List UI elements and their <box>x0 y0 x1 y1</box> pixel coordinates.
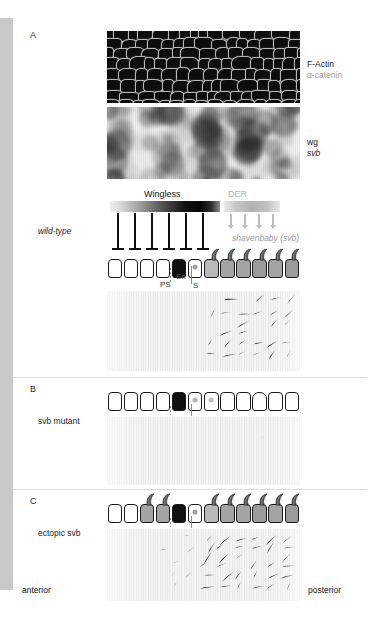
epidermal-cell <box>156 504 170 523</box>
epidermal-cell <box>156 259 170 278</box>
cell-nucleus <box>193 398 198 403</box>
denticle-hook <box>291 248 305 261</box>
epidermal-cell <box>124 504 138 523</box>
wingless-repression-bar-foot <box>180 248 192 250</box>
s-marker-label: S <box>193 281 198 290</box>
epidermal-cell <box>252 504 266 523</box>
en-marker-label: En <box>176 272 186 281</box>
left-gutter-bar <box>0 18 13 590</box>
epidermal-cell <box>220 504 234 523</box>
panel-letter-c: C <box>30 496 37 506</box>
epidermal-cell <box>140 504 154 523</box>
wingless-repression-bar <box>151 213 153 248</box>
s-marker-line-b <box>191 404 192 416</box>
epidermal-cell <box>140 259 154 278</box>
alpha-catenin-label: α-catenin <box>307 70 342 80</box>
denticle-hook <box>291 493 305 506</box>
epidermal-cell <box>220 259 234 278</box>
epidermal-cell <box>108 259 122 278</box>
f-actin-cell <box>294 99 300 103</box>
cell-nucleus <box>209 398 214 403</box>
der-activation-arrow-head <box>242 225 248 229</box>
cell-row-wild-type <box>107 252 300 278</box>
wild-type-row-label: wild-type <box>38 226 72 236</box>
svb-mutant-italic: svb <box>38 416 51 426</box>
ps-marker-label: PS <box>160 280 171 289</box>
der-gradient-bar <box>224 201 280 212</box>
panel-divider-b-c <box>13 489 367 490</box>
cuticle-svb-mutant <box>107 417 300 485</box>
der-activation-arrow-head <box>270 225 276 229</box>
cuticle-wild-type <box>107 291 300 371</box>
cuticle-ectopic-svb <box>107 529 300 601</box>
wingless-gradient-bar <box>110 201 220 212</box>
ectopic-plain: ectopic <box>38 528 67 538</box>
ectopic-svb-row-label: ectopic svb <box>38 528 81 538</box>
cuticle-edge-fade <box>107 529 300 601</box>
wingless-repression-bar-foot <box>129 248 141 250</box>
ps-marker-line-c <box>170 518 171 527</box>
epidermal-cell <box>140 392 154 411</box>
epidermal-cell <box>268 392 282 411</box>
wingless-repression-bar <box>117 213 119 248</box>
wingless-repression-bar <box>168 213 170 248</box>
epidermal-cell <box>124 392 138 411</box>
cuticle-edge-fade <box>107 291 300 371</box>
svb-mutant-row-label: svb mutant <box>38 416 80 426</box>
f-actin-cell <box>107 99 120 103</box>
figure-root: A F-Actin α-catenin wg svb Wingless DER … <box>0 0 375 626</box>
cell-nucleus <box>193 510 198 515</box>
f-actin-label: F-Actin <box>307 59 334 69</box>
wg-label: wg <box>307 137 318 147</box>
wingless-repression-bar <box>185 213 187 248</box>
wingless-gradient-title: Wingless <box>144 189 181 199</box>
epidermal-cell <box>204 504 218 523</box>
insitu-vignette <box>107 107 300 179</box>
epidermal-cell <box>236 392 250 411</box>
epidermal-cell <box>285 392 299 411</box>
ps-marker-line-b <box>170 406 171 415</box>
epidermal-cell <box>108 392 122 411</box>
svb-label: svb <box>307 148 320 158</box>
posterior-label: posterior <box>308 585 341 595</box>
epidermal-cell <box>236 504 250 523</box>
cuticle-edge-fade <box>107 417 300 485</box>
wingless-repression-bar-foot <box>197 248 209 250</box>
epidermal-cell <box>172 504 186 523</box>
wingless-repression-bar <box>202 213 204 248</box>
epidermal-cell <box>220 392 234 411</box>
epidermal-cell <box>156 392 170 411</box>
cell-row-svb-mutant <box>107 385 300 411</box>
ectopic-italic: svb <box>67 528 80 538</box>
der-activation-arrow-head <box>228 225 234 229</box>
panel-letter-b: B <box>30 384 36 394</box>
epidermal-cell <box>204 259 218 278</box>
f-actin-micrograph <box>107 31 300 103</box>
s-marker-line <box>191 266 192 284</box>
epidermal-cell <box>108 504 122 523</box>
cell-nucleus <box>193 265 198 270</box>
svb-mutant-plain: mutant <box>51 416 79 426</box>
s-marker-line-c <box>191 516 192 528</box>
shavenbaby-signal-label: shavenbaby (svb) <box>232 233 299 243</box>
epidermal-cell <box>268 504 282 523</box>
epidermal-cell <box>252 392 266 411</box>
epidermal-cell <box>252 259 266 278</box>
der-activation-arrow-head <box>256 225 262 229</box>
epidermal-cell <box>124 259 138 278</box>
epidermal-cell <box>285 259 299 278</box>
wg-svb-insitu-micrograph <box>107 107 300 179</box>
wingless-repression-bar <box>134 213 136 248</box>
der-gradient-title: DER <box>228 189 247 199</box>
wingless-repression-bar-foot <box>163 248 175 250</box>
epidermal-cell <box>204 392 218 411</box>
epidermal-cell <box>268 259 282 278</box>
anterior-label: anterior <box>22 585 51 595</box>
epidermal-cell <box>285 504 299 523</box>
wingless-repression-bar-foot <box>146 248 158 250</box>
cell-row-ectopic-svb <box>107 497 300 523</box>
panel-divider-a-b <box>13 377 367 378</box>
epidermal-cell <box>172 392 186 411</box>
panel-letter-a: A <box>30 30 36 40</box>
epidermal-cell <box>236 259 250 278</box>
